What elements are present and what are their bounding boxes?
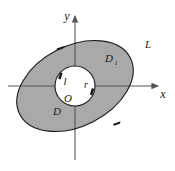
inner-region-label-D1-subscript: 1 <box>115 60 118 66</box>
outer-curve-label-L: L <box>144 38 151 50</box>
origin-label-O: O <box>64 92 72 104</box>
figure-canvas: y x L l r O D D 1 <box>0 0 175 171</box>
inner-region-label-D1-base: D <box>104 52 113 64</box>
inner-circle-curve-l <box>55 66 95 106</box>
inner-radius-label-r: r <box>84 79 88 90</box>
inner-curve-label-l: l <box>63 75 66 87</box>
x-axis-label: x <box>159 87 166 101</box>
inner-circle-path <box>55 66 95 106</box>
y-axis-label: y <box>63 9 70 23</box>
outer-region-label-D: D <box>52 105 61 117</box>
math-figure-container: y x L l r O D D 1 <box>0 0 175 171</box>
